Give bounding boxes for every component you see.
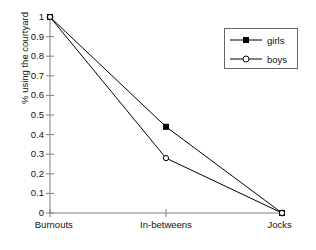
x-tick-label: In-betweens <box>140 219 192 230</box>
line-chart: 10.90.80.70.60.50.40.30.20.10 % using th… <box>0 0 316 250</box>
legend-item-girls: girls <box>225 30 297 50</box>
x-tick-label: Jocks <box>267 219 291 230</box>
y-tick-label: 0.1 <box>20 188 44 198</box>
y-axis-title-text: % using the courtyard <box>19 12 30 104</box>
y-tick-label: 0.2 <box>20 169 44 179</box>
y-tick-label: 0 <box>20 208 44 218</box>
legend-label-boys: boys <box>267 54 287 65</box>
y-tick-label: 0.3 <box>20 149 44 159</box>
legend-label-girls: girls <box>267 35 284 46</box>
x-tick-label: Burnouts <box>35 219 73 230</box>
y-axis-title: % using the courtyard <box>14 0 30 138</box>
legend-item-boys: boys <box>225 49 297 69</box>
legend: girls boys <box>224 28 298 69</box>
legend-marker-girls <box>229 33 263 47</box>
legend-marker-boys <box>229 52 263 66</box>
